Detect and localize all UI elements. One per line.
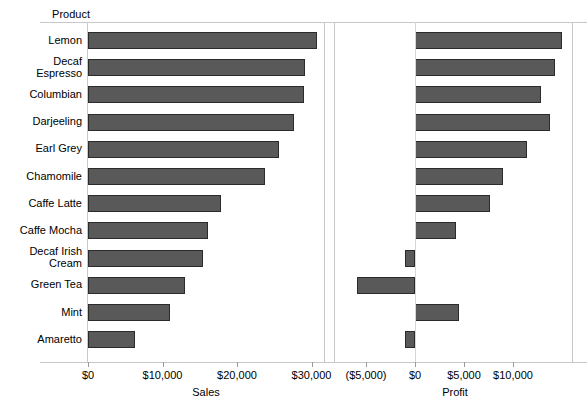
category-label: Decaf IrishCream	[0, 245, 82, 269]
bar-profit[interactable]	[415, 141, 527, 158]
category-label: Lemon	[0, 34, 82, 46]
axis-tick	[464, 362, 465, 367]
axis-tick-label: $10,000	[143, 369, 183, 382]
axis-tick-label: $20,000	[217, 369, 257, 382]
category-label: Caffe Mocha	[0, 224, 82, 236]
bar-profit[interactable]	[415, 222, 456, 239]
axis-title-profit: Profit	[442, 386, 468, 399]
category-label: Caffe Latte	[0, 197, 82, 209]
zero-reference-line	[415, 22, 416, 362]
bar-sales[interactable]	[88, 250, 203, 267]
bar-profit[interactable]	[415, 32, 562, 49]
bar-profit[interactable]	[415, 304, 459, 321]
bar-sales[interactable]	[88, 141, 279, 158]
axis-tick-label: $30,000	[292, 369, 332, 382]
axis-title-sales: Sales	[192, 386, 220, 399]
bar-sales[interactable]	[88, 86, 304, 103]
bar-sales[interactable]	[88, 168, 265, 185]
category-label: Amaretto	[0, 333, 82, 345]
dimension-field-label: Product	[28, 8, 90, 21]
category-label: Mint	[0, 306, 82, 318]
axis-tick	[237, 362, 238, 367]
category-label: Darjeeling	[0, 115, 82, 127]
axis-tick	[415, 362, 416, 367]
bar-sales[interactable]	[88, 32, 317, 49]
bar-profit[interactable]	[415, 168, 503, 185]
axis-tick-label: $0	[409, 369, 421, 382]
axis-tick-label: $5,000	[447, 369, 481, 382]
axis-tick-label: ($5,000)	[346, 369, 387, 382]
category-label: Earl Grey	[0, 142, 82, 154]
axis-tick	[513, 362, 514, 367]
axis-tick	[163, 362, 164, 367]
bar-profit[interactable]	[415, 195, 490, 212]
bar-profit[interactable]	[405, 331, 415, 348]
bar-profit[interactable]	[415, 59, 555, 76]
axis-tick	[88, 362, 89, 367]
category-label: Columbian	[0, 88, 82, 100]
axis-tick-label: $0	[82, 369, 94, 382]
axis-tick	[312, 362, 313, 367]
bar-sales[interactable]	[88, 114, 294, 131]
bar-sales[interactable]	[88, 222, 208, 239]
bar-chart: Product LemonDecafEspressoColumbianDarje…	[0, 0, 587, 419]
bar-sales[interactable]	[88, 195, 221, 212]
axis-tick-label: $10,000	[493, 369, 533, 382]
axis-baseline	[40, 362, 587, 363]
bar-profit[interactable]	[415, 114, 550, 131]
category-label: DecafEspresso	[0, 55, 82, 79]
bar-profit[interactable]	[415, 86, 541, 103]
bar-sales[interactable]	[88, 59, 305, 76]
category-label: Green Tea	[0, 278, 82, 290]
bar-sales[interactable]	[88, 277, 185, 294]
bar-sales[interactable]	[88, 331, 135, 348]
bar-sales[interactable]	[88, 304, 170, 321]
bar-profit[interactable]	[357, 277, 415, 294]
category-label: Chamomile	[0, 170, 82, 182]
axis-tick	[366, 362, 367, 367]
bar-profit[interactable]	[405, 250, 415, 267]
